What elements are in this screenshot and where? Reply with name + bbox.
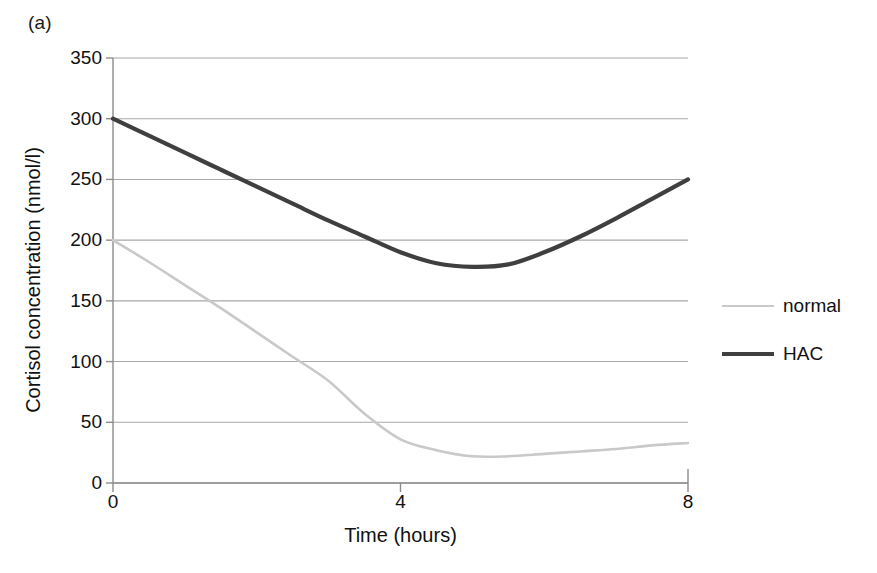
legend-swatch-normal	[722, 305, 774, 307]
y-tick-label-150: 150	[46, 291, 102, 310]
series-line-normal	[113, 240, 688, 457]
x-tick-label-8: 8	[683, 492, 694, 511]
y-tick-label-250: 250	[46, 169, 102, 188]
y-tick-label-0: 0	[46, 473, 102, 492]
legend-item-HAC: HAC	[722, 330, 872, 378]
legend-label-normal: normal	[783, 295, 841, 317]
x-axis-title: Time (hours)	[113, 524, 688, 547]
chart-legend: normalHAC	[722, 282, 872, 378]
legend-swatch-HAC	[722, 352, 774, 356]
legend-label-HAC: HAC	[783, 343, 823, 365]
gridlines-group	[113, 58, 688, 483]
x-tick-label-0: 0	[108, 492, 119, 511]
series-line-HAC	[113, 119, 688, 267]
data-series-group	[113, 119, 688, 457]
y-tick-label-200: 200	[46, 230, 102, 249]
line-chart: 050100150200250300350 048 Cortisol conce…	[0, 0, 877, 573]
legend-item-normal: normal	[722, 282, 872, 330]
tick-marks-group	[106, 58, 688, 492]
y-axis-title: Cortisol concentration (nmol/l)	[22, 50, 45, 510]
axis-lines-group	[113, 58, 688, 483]
y-tick-label-100: 100	[46, 352, 102, 371]
y-tick-label-300: 300	[46, 109, 102, 128]
y-tick-label-50: 50	[46, 412, 102, 431]
y-tick-label-350: 350	[46, 48, 102, 67]
x-tick-label-4: 4	[395, 492, 406, 511]
